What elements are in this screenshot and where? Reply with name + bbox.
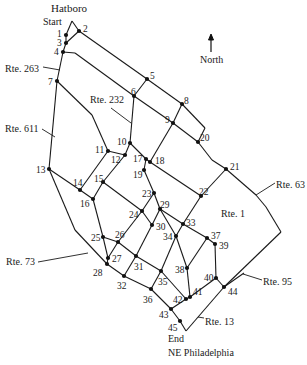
node-dot-7 bbox=[55, 79, 59, 83]
node-dot-42 bbox=[184, 297, 188, 301]
node-label-17: 17 bbox=[133, 154, 143, 164]
route-label-rte13: Rte. 13 bbox=[205, 317, 234, 327]
road-segment-24-30 bbox=[142, 211, 152, 225]
node-label-32: 32 bbox=[117, 281, 127, 291]
road-segment-30-31 bbox=[136, 225, 152, 256]
node-label-22: 22 bbox=[199, 187, 209, 197]
road-segment-6-10 bbox=[130, 96, 134, 143]
road-segment-7-w7 bbox=[57, 81, 92, 115]
node-label-41: 41 bbox=[193, 287, 203, 297]
route-label-rte63: Rte. 63 bbox=[276, 180, 305, 190]
node-dot-30 bbox=[150, 223, 154, 227]
node-dot-34 bbox=[174, 234, 178, 238]
road-segment-9-20 bbox=[173, 123, 198, 142]
road-segment-r63-e1 bbox=[256, 195, 266, 207]
road-segment-36-43 bbox=[151, 289, 171, 309]
road-segment-38-41 bbox=[187, 268, 190, 297]
road-segment-16-25 bbox=[93, 199, 103, 237]
road-segment-n4a-6 bbox=[75, 53, 134, 96]
road-segment-5-8 bbox=[147, 79, 182, 104]
node-label-26: 26 bbox=[115, 230, 125, 240]
node-label-35: 35 bbox=[158, 277, 168, 287]
route-leader-rte63 bbox=[256, 183, 275, 195]
route-label-rte73: Rte. 73 bbox=[6, 257, 35, 267]
node-dot-38 bbox=[185, 266, 189, 270]
road-segment-21-r63 bbox=[226, 169, 256, 195]
node-dot-4 bbox=[61, 50, 65, 54]
start-label: Start bbox=[43, 17, 62, 27]
node-dot-12 bbox=[123, 153, 127, 157]
road-segment-37-38 bbox=[187, 238, 207, 268]
node-label-4: 4 bbox=[54, 47, 59, 57]
end-label: End bbox=[168, 334, 184, 344]
node-label-11: 11 bbox=[95, 145, 104, 155]
node-dot-40 bbox=[214, 276, 218, 280]
road-segment-8-t20 bbox=[182, 104, 205, 128]
node-label-24: 24 bbox=[129, 210, 139, 220]
node-label-36: 36 bbox=[143, 295, 153, 305]
road-segment-25-27 bbox=[103, 237, 108, 258]
road-segment-44-r95 bbox=[224, 273, 244, 287]
node-dot-24 bbox=[140, 209, 144, 213]
node-label-27: 27 bbox=[112, 254, 122, 264]
top-town-label: Hatboro bbox=[51, 3, 87, 13]
road-segment-e1-e2 bbox=[266, 207, 281, 232]
route-leader-rte263 bbox=[43, 67, 60, 70]
node-label-8: 8 bbox=[184, 96, 189, 106]
bottom-town-label: NE Philadelphia bbox=[168, 348, 234, 358]
node-label-34: 34 bbox=[163, 232, 173, 242]
node-dot-11 bbox=[106, 149, 110, 153]
route-leader-rte73 bbox=[38, 253, 88, 262]
node-dot-35 bbox=[159, 269, 163, 273]
node-label-37: 37 bbox=[211, 231, 221, 241]
node-label-12: 12 bbox=[111, 155, 121, 165]
node-dot-21 bbox=[224, 167, 228, 171]
route-leader-lines bbox=[38, 67, 275, 318]
node-label-29: 29 bbox=[160, 200, 170, 210]
node-dot-44 bbox=[222, 285, 226, 289]
node-dot-9 bbox=[171, 121, 175, 125]
node-dot-17 bbox=[144, 157, 148, 161]
road-segment-20-w20 bbox=[198, 142, 212, 160]
route-label-rte232: Rte. 232 bbox=[90, 95, 124, 105]
road-segment-32-36 bbox=[124, 276, 151, 289]
node-dot-10 bbox=[128, 141, 132, 145]
route-leader-rte232 bbox=[111, 108, 131, 123]
node-dot-3 bbox=[64, 41, 68, 45]
node-label-15: 15 bbox=[94, 174, 104, 184]
node-dot-1 bbox=[64, 33, 68, 37]
node-label-20: 20 bbox=[200, 133, 210, 143]
node-label-25: 25 bbox=[91, 233, 101, 243]
node-dot-25 bbox=[101, 235, 105, 239]
route-leader-rte95 bbox=[243, 274, 262, 280]
node-label-40: 40 bbox=[204, 273, 214, 283]
node-label-28: 28 bbox=[93, 268, 103, 278]
node-dot-41 bbox=[188, 295, 192, 299]
road-segment-8-9 bbox=[173, 104, 182, 123]
road-segment-34-38 bbox=[176, 236, 187, 268]
node-dot-5 bbox=[145, 77, 149, 81]
road-segment-3-2 bbox=[66, 31, 79, 43]
node-label-5: 5 bbox=[150, 71, 155, 81]
node-label-18: 18 bbox=[155, 156, 165, 166]
road-segment-28-32 bbox=[107, 264, 124, 276]
node-label-16: 16 bbox=[80, 199, 90, 209]
node-dot-13 bbox=[47, 167, 51, 171]
node-dot-33 bbox=[181, 222, 185, 226]
node-label-39: 39 bbox=[219, 241, 229, 251]
road-network-diagram bbox=[0, 0, 307, 365]
route-leader-rte13 bbox=[198, 317, 204, 318]
node-label-7: 7 bbox=[48, 77, 53, 87]
route-label-rte95: Rte. 95 bbox=[263, 277, 292, 287]
node-label-10: 10 bbox=[117, 137, 127, 147]
node-dot-31 bbox=[134, 254, 138, 258]
route-label-rte263: Rte. 263 bbox=[5, 64, 39, 74]
road-segment-11-14 bbox=[80, 151, 108, 190]
road-segment-start-1 bbox=[66, 21, 72, 35]
node-dot-37 bbox=[205, 236, 209, 240]
route-label-rte1: Rte. 1 bbox=[221, 209, 245, 219]
road-segment-15-16 bbox=[93, 182, 103, 199]
node-label-33: 33 bbox=[186, 218, 196, 228]
node-label-23: 23 bbox=[142, 189, 152, 199]
node-label-31: 31 bbox=[134, 262, 144, 272]
